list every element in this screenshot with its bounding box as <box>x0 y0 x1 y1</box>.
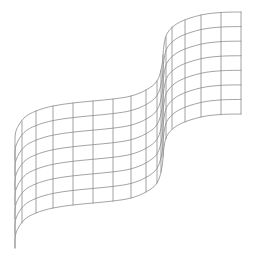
horizontal-grid-lines <box>15 12 241 248</box>
vertical-ruling-lines <box>15 12 241 248</box>
grid-row-line <box>15 114 241 248</box>
figure-canvas <box>0 0 255 263</box>
wireframe-surface <box>0 0 255 263</box>
grid-row-line <box>15 99 241 233</box>
